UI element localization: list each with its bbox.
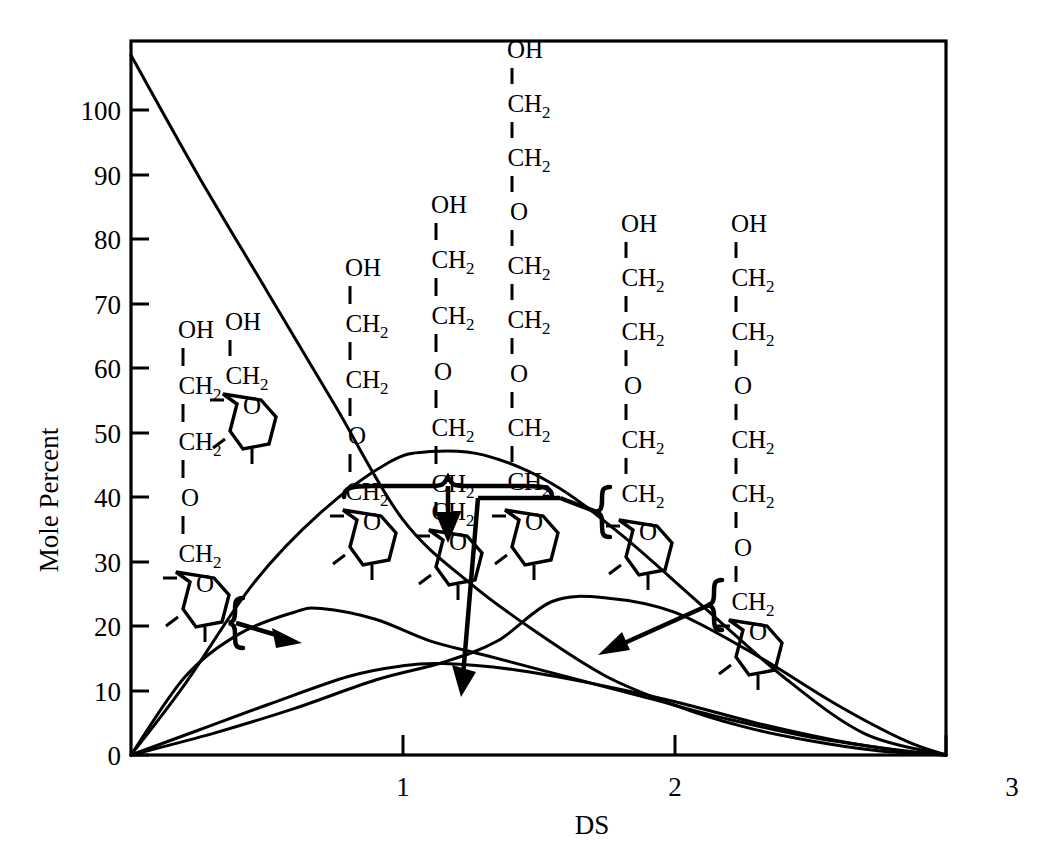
arrowhead-down-6	[452, 665, 476, 697]
pointer-line-7	[620, 605, 709, 645]
structure-6-label-OH: OH	[621, 210, 657, 237]
curve-3-right-peak	[131, 596, 946, 755]
y-tick-label: 50	[94, 419, 121, 449]
y-tick-label: 70	[94, 290, 121, 320]
structure-3-label-CH2: CH2	[345, 310, 388, 342]
structure-5-label-CH2: CH2	[507, 306, 550, 338]
structure-4-label-O: O	[434, 358, 452, 385]
structure-3-label-CH2: CH2	[345, 366, 388, 398]
structure-2-label-CH2: CH2	[225, 362, 268, 394]
y-axis-ticks	[131, 110, 149, 755]
arrowhead-right-1	[272, 628, 302, 648]
structure-5-label-CH2: CH2	[507, 90, 550, 122]
structure-7-label-CH2: CH2	[731, 480, 774, 512]
figure-canvas: 100 90 80 70 60 50 40 30 20 10 0 Mole Pe…	[0, 0, 1043, 861]
structure-6-label-CH2: CH2	[621, 264, 664, 296]
structure-7-label-O: O	[734, 372, 752, 399]
x-axis-title: DS	[575, 810, 610, 840]
arrowhead-left-7	[598, 632, 630, 655]
y-tick-label: 40	[94, 483, 121, 513]
structure-4-label-CH2: CH2	[431, 246, 474, 278]
x-tick-label: 3	[1005, 772, 1019, 802]
structure-1-ring-O: O	[196, 570, 214, 597]
x-axis-tick-labels: 1 2 3	[396, 772, 1019, 802]
structure-7-label-CH2: CH2	[731, 426, 774, 458]
x-tick-label: 1	[396, 772, 410, 802]
brace-structure-7-pointer	[598, 580, 722, 655]
structure-1-label-O: O	[181, 484, 199, 511]
structure-7-label-OH: OH	[731, 210, 767, 237]
structure-4-label-OH: OH	[431, 191, 467, 218]
structure-6-label-CH2: CH2	[621, 480, 664, 512]
structure-3: OH CH2 CH2 O CH2 O	[330, 254, 396, 580]
structure-1-label-CH2: CH2	[178, 428, 221, 460]
structure-3-label-OH: OH	[345, 254, 381, 281]
structure-1-label-OH: OH	[178, 316, 214, 343]
y-tick-label: 80	[94, 225, 121, 255]
structure-5-label-OH: OH	[507, 36, 543, 63]
y-tick-label: 60	[94, 354, 121, 384]
y-tick-label: 90	[94, 161, 121, 191]
structure-5-label-CH2: CH2	[507, 414, 550, 446]
structure-7-label-CH2: CH2	[731, 264, 774, 296]
y-axis-tick-labels: 100 90 80 70 60 50 40 30 20 10 0	[81, 96, 122, 771]
structure-6-label-O: O	[624, 372, 642, 399]
structure-6-ring-O: O	[639, 518, 657, 545]
structure-1: OH CH2 CH2 O CH2 O	[163, 316, 229, 642]
structure-5-label-O: O	[510, 198, 528, 225]
structure-5-label-CH2: CH2	[507, 144, 550, 176]
chart-svg: 100 90 80 70 60 50 40 30 20 10 0 Mole Pe…	[0, 0, 1043, 861]
y-tick-label: 100	[81, 96, 122, 126]
structure-1-label-CH2: CH2	[178, 540, 221, 572]
structure-2-label-OH: OH	[225, 308, 261, 335]
structure-3-label-O: O	[348, 422, 366, 449]
structure-6-label-CH2: CH2	[621, 426, 664, 458]
y-tick-label: 30	[94, 548, 121, 578]
structure-3-label-CH2: CH2	[345, 478, 388, 510]
y-tick-label: 0	[108, 741, 122, 771]
y-axis-title: Mole Percent	[34, 427, 64, 572]
structure-5-label-O: O	[510, 360, 528, 387]
structure-7-ring-O: O	[749, 618, 767, 645]
structure-7-label-CH2: CH2	[731, 588, 774, 620]
structure-3-ring-O: O	[363, 508, 381, 535]
structure-7-label-O: O	[734, 534, 752, 561]
x-tick-label: 2	[668, 772, 682, 802]
y-tick-label: 20	[94, 612, 121, 642]
structure-7: OH CH2 CH2 O CH2 CH2 O O CH2 O	[716, 210, 782, 690]
structure-6: OH CH2 CH2 O CH2 CH2 O	[606, 210, 672, 590]
structure-7-label-CH2: CH2	[731, 318, 774, 350]
structure-3-pyranose-ring: O	[330, 508, 396, 580]
structure-5-ring-O: O	[525, 508, 543, 535]
structure-2-ring-O: O	[243, 392, 261, 419]
structure-4-label-CH2: CH2	[431, 302, 474, 334]
structure-5-label-CH2: CH2	[507, 252, 550, 284]
structure-4-label-CH2: CH2	[431, 414, 474, 446]
y-tick-label: 10	[94, 677, 121, 707]
structure-6-label-CH2: CH2	[621, 318, 664, 350]
structure-5-pyranose-ring: O	[492, 508, 558, 580]
